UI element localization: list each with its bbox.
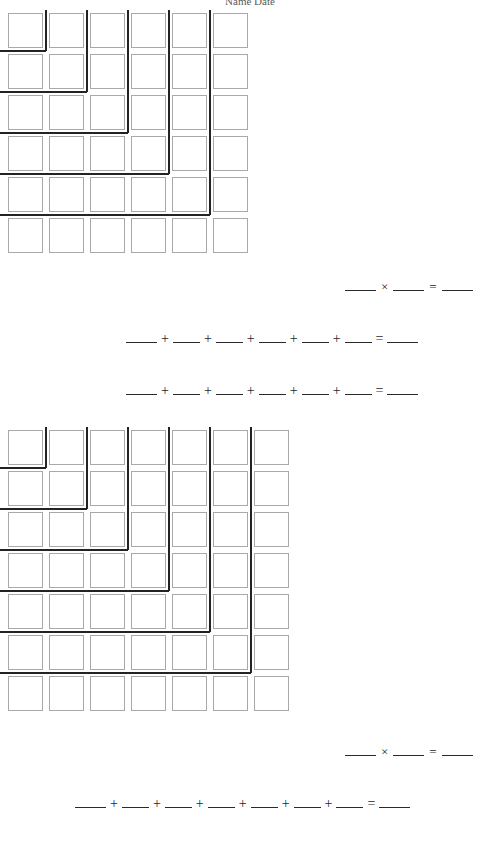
grid-square[interactable]: [8, 594, 43, 629]
grid-square[interactable]: [254, 676, 289, 711]
gnomon-line-vertical: [168, 427, 170, 591]
grid-square[interactable]: [90, 635, 125, 670]
grid-square[interactable]: [254, 635, 289, 670]
grid-square[interactable]: [213, 471, 248, 506]
grid-square[interactable]: [131, 430, 166, 465]
grid-square[interactable]: [131, 635, 166, 670]
grid-square[interactable]: [90, 594, 125, 629]
gnomon-line-horizontal: [0, 467, 46, 469]
plus-operator: +: [149, 795, 165, 813]
grid-square[interactable]: [90, 512, 125, 547]
grid-square[interactable]: [254, 594, 289, 629]
gnomon-line-horizontal: [0, 672, 251, 674]
grid-square[interactable]: [49, 635, 84, 670]
addition-equation: ++++++=: [75, 794, 410, 813]
gnomon-line-vertical: [209, 427, 211, 632]
answer-blank[interactable]: [294, 795, 321, 808]
gnomon-line-horizontal: [0, 549, 128, 551]
gnomon-line-vertical: [45, 427, 47, 468]
grid-square[interactable]: [49, 471, 84, 506]
grid-square[interactable]: [254, 512, 289, 547]
equals-operator: =: [424, 743, 441, 761]
plus-operator: +: [235, 795, 251, 813]
grid-square[interactable]: [8, 635, 43, 670]
square-grid-7x7: [8, 430, 289, 711]
answer-blank[interactable]: [251, 795, 278, 808]
grid-square[interactable]: [8, 430, 43, 465]
result-blank[interactable]: [379, 795, 410, 808]
grid-square[interactable]: [131, 471, 166, 506]
grid-square[interactable]: [8, 512, 43, 547]
grid-square[interactable]: [90, 430, 125, 465]
section-2: ×=++++++=: [0, 0, 500, 847]
grid-square[interactable]: [172, 594, 207, 629]
result-blank[interactable]: [442, 743, 473, 756]
grid-square[interactable]: [49, 512, 84, 547]
grid-square[interactable]: [49, 430, 84, 465]
grid-square[interactable]: [254, 430, 289, 465]
answer-blank[interactable]: [122, 795, 149, 808]
gnomon-line-vertical: [127, 427, 129, 550]
answer-blank[interactable]: [208, 795, 235, 808]
plus-operator: +: [106, 795, 122, 813]
grid-square[interactable]: [131, 594, 166, 629]
grid-square[interactable]: [90, 676, 125, 711]
grid-square[interactable]: [49, 676, 84, 711]
grid-square[interactable]: [213, 594, 248, 629]
grid-square[interactable]: [131, 676, 166, 711]
grid-square[interactable]: [8, 676, 43, 711]
grid-square[interactable]: [172, 635, 207, 670]
grid-square[interactable]: [172, 471, 207, 506]
plus-operator: +: [192, 795, 208, 813]
answer-blank[interactable]: [336, 795, 363, 808]
grid-square[interactable]: [49, 553, 84, 588]
grid-square[interactable]: [131, 553, 166, 588]
grid-square[interactable]: [213, 430, 248, 465]
multiplication-equation: ×=: [345, 742, 473, 761]
gnomon-line-vertical: [250, 427, 252, 673]
grid-square[interactable]: [254, 553, 289, 588]
grid-square[interactable]: [213, 512, 248, 547]
plus-operator: +: [278, 795, 294, 813]
grid-square[interactable]: [131, 512, 166, 547]
grid-square[interactable]: [213, 635, 248, 670]
grid-square[interactable]: [90, 471, 125, 506]
answer-blank[interactable]: [75, 795, 106, 808]
gnomon-line-horizontal: [0, 590, 169, 592]
times-operator: ×: [376, 743, 393, 761]
grid-square[interactable]: [90, 553, 125, 588]
grid-square[interactable]: [8, 471, 43, 506]
grid-square[interactable]: [172, 553, 207, 588]
worksheet-page: Name Date ×=+++++=+++++=×=++++++=: [0, 0, 500, 847]
gnomon-line-horizontal: [0, 631, 210, 633]
grid-square[interactable]: [172, 676, 207, 711]
grid-square[interactable]: [172, 430, 207, 465]
grid-square[interactable]: [49, 594, 84, 629]
grid-square[interactable]: [254, 471, 289, 506]
gnomon-line-horizontal: [0, 508, 87, 510]
grid-square[interactable]: [213, 553, 248, 588]
grid-square[interactable]: [8, 553, 43, 588]
grid-square[interactable]: [172, 512, 207, 547]
equals-operator: =: [363, 795, 379, 813]
answer-blank[interactable]: [393, 743, 424, 756]
answer-blank[interactable]: [345, 743, 376, 756]
answer-blank[interactable]: [165, 795, 192, 808]
grid-square[interactable]: [213, 676, 248, 711]
gnomon-line-vertical: [86, 427, 88, 509]
plus-operator: +: [321, 795, 337, 813]
